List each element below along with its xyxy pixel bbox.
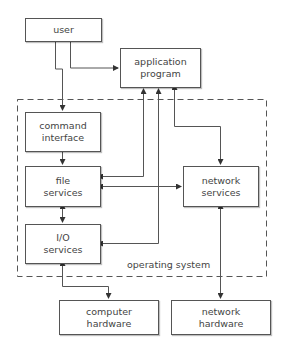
os-boundary-label: operating system (127, 259, 210, 270)
node-app-label: application program (134, 56, 186, 80)
edge-io-app (102, 89, 159, 244)
node-file-services: file services (25, 166, 101, 207)
node-computer-hardware: computer hardware (59, 300, 159, 335)
edge-netsvc-app (175, 89, 221, 164)
node-nethw-label: network hardware (199, 306, 244, 330)
node-user-label: user (53, 24, 74, 36)
node-file-label: file services (44, 175, 83, 199)
node-io-label: I/O services (44, 232, 83, 256)
node-application-program: application program (120, 48, 201, 88)
node-command-interface: command interface (25, 112, 101, 152)
edge-io-comphw (63, 265, 109, 298)
node-netsvc-label: network services (202, 175, 241, 199)
edge-user-app (71, 41, 119, 68)
node-cmd-label: command interface (39, 120, 86, 144)
node-io-services: I/O services (25, 224, 101, 264)
node-comphw-label: computer hardware (86, 306, 132, 330)
node-network-services: network services (183, 166, 259, 207)
edge-file-app (102, 89, 144, 177)
node-network-hardware: network hardware (171, 300, 271, 335)
node-user: user (25, 18, 102, 42)
